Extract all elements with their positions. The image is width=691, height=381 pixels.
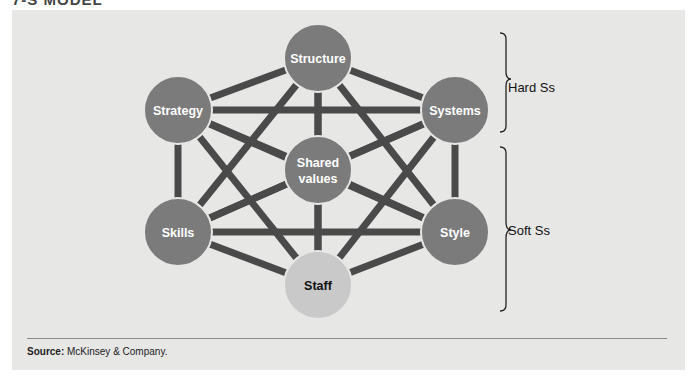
node-label: Strategy bbox=[153, 104, 203, 118]
node-shared_values: Sharedvalues bbox=[284, 136, 352, 204]
node-label: Skills bbox=[162, 226, 195, 240]
source-note: Source: McKinsey & Company. bbox=[27, 346, 167, 357]
hard-ss-label: Hard Ss bbox=[508, 80, 555, 95]
node-structure: Structure bbox=[284, 24, 352, 92]
node-label: Shared bbox=[297, 156, 339, 170]
seven-s-diagram: StructureStrategySystemsSharedvaluesSkil… bbox=[0, 0, 691, 381]
node-label: Style bbox=[440, 226, 470, 240]
node-style: Style bbox=[421, 198, 489, 266]
node-skills: Skills bbox=[144, 198, 212, 266]
node-staff: Staff bbox=[284, 251, 352, 319]
node-label: Systems bbox=[429, 104, 480, 118]
footer-divider bbox=[27, 338, 667, 339]
source-label: Source: bbox=[27, 346, 64, 357]
node-label: Staff bbox=[304, 279, 333, 293]
source-text: McKinsey & Company. bbox=[64, 346, 167, 357]
node-strategy: Strategy bbox=[144, 76, 212, 144]
soft-ss-label: Soft Ss bbox=[508, 223, 550, 238]
node-label: Structure bbox=[290, 52, 346, 66]
model-nodes: StructureStrategySystemsSharedvaluesSkil… bbox=[144, 24, 489, 319]
node-label: values bbox=[299, 172, 338, 186]
node-systems: Systems bbox=[421, 76, 489, 144]
